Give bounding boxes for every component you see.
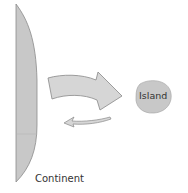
island-label: Island [139,90,167,101]
continent-shape [16,4,37,182]
continent-label: Continent [35,173,84,184]
small-arrow-icon [64,117,111,127]
large-arrow-icon [48,72,122,110]
